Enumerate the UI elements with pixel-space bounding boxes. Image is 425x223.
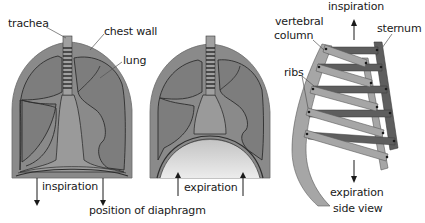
trachea-leader bbox=[46, 27, 66, 38]
thorax-expiration bbox=[150, 36, 270, 196]
sternum-leader bbox=[382, 34, 392, 48]
expiration-label: expiration bbox=[184, 182, 237, 193]
side-inspiration-label: inspiration bbox=[328, 1, 384, 12]
lung-label: lung bbox=[123, 55, 146, 66]
trachea bbox=[63, 36, 72, 95]
inspiration-label: inspiration bbox=[42, 181, 98, 192]
sternum-label: sternum bbox=[377, 23, 421, 34]
trachea-label: trachea bbox=[8, 18, 49, 29]
side-view-caption: side view bbox=[333, 203, 383, 214]
vertebral-column-label-line2: column bbox=[274, 30, 313, 41]
ribcage-side-view bbox=[292, 19, 398, 206]
diaphragm-position-caption: position of diaphragm bbox=[89, 205, 206, 216]
vertebral-column-label-line1: vertebral bbox=[275, 16, 323, 27]
chest-wall-label: chest wall bbox=[104, 26, 157, 37]
up-arrow-icon bbox=[351, 19, 357, 40]
down-arrow-icon bbox=[351, 160, 357, 183]
side-expiration-label: expiration bbox=[330, 187, 383, 198]
chest-wall-leader bbox=[90, 34, 104, 50]
ribs-label: ribs bbox=[284, 67, 304, 78]
trachea bbox=[206, 36, 215, 95]
